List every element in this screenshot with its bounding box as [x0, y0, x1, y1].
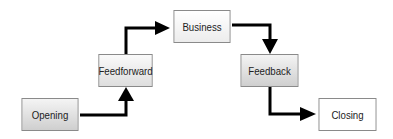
arrowhead-up-icon	[118, 87, 134, 101]
node-label: Feedforward	[98, 65, 152, 77]
arrowhead-right-icon	[300, 107, 316, 121]
arrow-feedback-to-closing	[270, 86, 302, 114]
node-closing: Closing	[319, 98, 377, 131]
node-label: Feedback	[248, 65, 290, 77]
node-feedforward: Feedforward	[98, 54, 152, 87]
arrowhead-right-icon	[155, 21, 170, 35]
arrowhead-down-icon	[262, 39, 278, 54]
arrow-feedforward-to-business	[126, 28, 157, 54]
arrow-business-to-feedback	[232, 25, 270, 40]
node-label: Business	[182, 21, 221, 33]
node-feedback: Feedback	[241, 54, 299, 87]
flow-diagram: Opening Feedforward Business Feedback Cl…	[0, 0, 393, 139]
node-label: Closing	[331, 109, 363, 121]
arrow-opening-to-feedforward	[80, 100, 126, 115]
node-business: Business	[173, 10, 230, 43]
node-opening: Opening	[21, 98, 78, 131]
node-label: Opening	[32, 109, 69, 121]
